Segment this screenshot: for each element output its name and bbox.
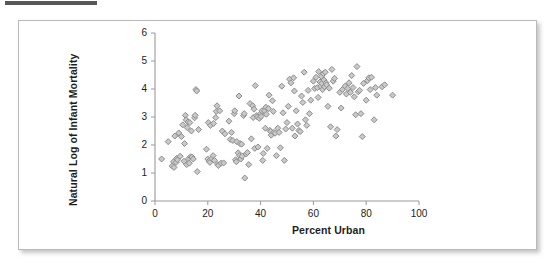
scatter-point [306, 111, 312, 117]
x-tick-label: 40 [249, 208, 273, 219]
scatter-point [354, 64, 360, 70]
scatter-point [353, 112, 359, 118]
scatter-point [289, 125, 295, 131]
scatter-point [334, 127, 340, 133]
data-points [159, 64, 396, 181]
scatter-plot: 0123456020406080100 Natural Log of Infan… [19, 21, 538, 251]
scatter-point [329, 66, 335, 72]
y-tick-label: 0 [133, 195, 147, 206]
scatter-point [293, 108, 299, 114]
y-tick-label: 2 [133, 139, 147, 150]
scatter-point [264, 145, 270, 151]
scatter-point [246, 162, 252, 168]
scatter-point [279, 83, 285, 89]
scatter-point [333, 133, 339, 139]
scatter-point [248, 136, 254, 142]
scatter-point [269, 98, 275, 104]
x-tick-label: 100 [407, 208, 431, 219]
axis-ticks [151, 33, 419, 205]
scatter-point [236, 93, 242, 99]
scatter-point [260, 150, 266, 156]
scatter-point [273, 153, 279, 159]
scatter-point [229, 129, 235, 135]
y-tick-label: 4 [133, 83, 147, 94]
scatter-point [302, 117, 308, 123]
figure-frame: 0123456020406080100 Natural Log of Infan… [18, 20, 537, 250]
scatter-point [283, 126, 289, 132]
scatter-point [301, 69, 307, 75]
scatter-point [266, 92, 272, 98]
scatter-point [308, 97, 314, 103]
scatter-point [349, 73, 355, 79]
y-tick-label: 6 [133, 27, 147, 38]
scatter-point [226, 118, 232, 124]
scatter-point [165, 139, 171, 145]
scatter-point [299, 93, 305, 99]
scatter-point [374, 92, 380, 98]
scatter-point [390, 92, 396, 98]
scatter-point [305, 87, 311, 93]
scatter-point [277, 145, 283, 151]
scatter-point [252, 83, 258, 89]
scatter-point [363, 97, 369, 103]
scatter-point [280, 110, 286, 116]
x-tick-label: 60 [301, 208, 325, 219]
scatter-point [300, 99, 306, 105]
x-tick-label: 80 [354, 208, 378, 219]
y-axis-title: Natural Log of Infant Mortality [67, 54, 79, 206]
scatter-point [242, 175, 248, 181]
scatter-point [292, 133, 298, 139]
y-tick-label: 1 [133, 167, 147, 178]
scatter-point [315, 94, 321, 100]
scatter-point [371, 117, 377, 123]
top-rule-divider [5, 1, 97, 5]
scatter-point [213, 115, 219, 121]
plot-canvas [19, 21, 538, 251]
y-tick-label: 3 [133, 111, 147, 122]
scatter-point [359, 134, 365, 140]
scatter-point [281, 157, 287, 163]
scatter-point [260, 157, 266, 163]
scatter-point [285, 103, 291, 109]
scatter-point [196, 127, 202, 133]
x-tick-label: 0 [143, 208, 167, 219]
x-axis-title: Percent Urban [19, 224, 538, 236]
scatter-point [291, 88, 297, 94]
scatter-point [295, 121, 301, 127]
scatter-point [325, 103, 331, 109]
scatter-point [159, 156, 165, 162]
scatter-point [304, 122, 310, 128]
x-tick-label: 20 [196, 208, 220, 219]
scatter-point [284, 120, 290, 126]
scatter-point [351, 94, 357, 100]
scatter-point [358, 111, 364, 117]
y-tick-label: 5 [133, 55, 147, 66]
scatter-point [194, 169, 200, 175]
scatter-point [203, 146, 209, 152]
scatter-point [328, 124, 334, 130]
scatter-point [182, 141, 188, 147]
scatter-point [338, 105, 344, 111]
